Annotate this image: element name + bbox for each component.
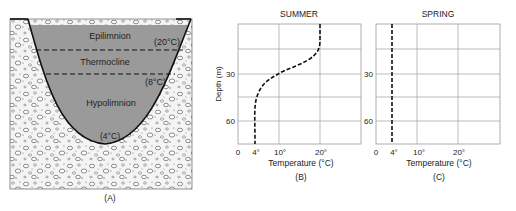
spring-x-axis-label: Temperature (°C): [406, 158, 471, 168]
x-tick-10: 10°: [413, 148, 425, 157]
y-tick-60: 60: [364, 117, 373, 126]
spring-grid: [376, 24, 500, 144]
layer-label-thermocline: Thermocline: [80, 57, 130, 67]
panel-c-label: (C): [433, 172, 445, 182]
x-tick-20: 20°: [315, 148, 327, 157]
x-tick-4: 4°: [390, 148, 398, 157]
layer-temp-epilimnion: (20°C): [154, 37, 180, 47]
layer-temp-thermocline: (8°C): [145, 77, 166, 87]
panel-b-label: (B): [295, 172, 307, 182]
layer-label-hypolimnion: Hypolimnion: [86, 98, 136, 108]
y-tick-60: 60: [226, 117, 235, 126]
summer-temperature-curve: [255, 24, 320, 144]
summer-chart: SUMMER Depth (m) 30 60 0 4° 10° 20° Temp…: [200, 0, 368, 211]
lake-cross-section: Epilimnion (20°C) Thermocline (8°C) Hypo…: [0, 0, 200, 211]
x-tick-20: 20°: [453, 148, 465, 157]
x-tick-10: 10°: [274, 148, 286, 157]
x-tick-0: 0: [374, 148, 379, 157]
layer-label-epilimnion: Epilimnion: [89, 31, 131, 41]
summer-chart-title: SUMMER: [280, 9, 318, 19]
summer-grid: [238, 24, 361, 144]
y-tick-30: 30: [364, 70, 373, 79]
x-tick-0: 0: [236, 148, 241, 157]
spring-chart-title: SPRING: [422, 9, 455, 19]
layer-temp-hypolimnion: (4°C): [100, 131, 120, 141]
spring-chart: SPRING 30 60 0 4° 10° 20° Temperature (°…: [355, 0, 516, 211]
y-tick-30: 30: [226, 70, 235, 79]
x-tick-4: 4°: [252, 148, 260, 157]
summer-x-axis-label: Temperature (°C): [268, 158, 333, 168]
panel-a-label: (A): [104, 193, 116, 203]
summer-y-axis-label: Depth (m): [214, 66, 223, 102]
